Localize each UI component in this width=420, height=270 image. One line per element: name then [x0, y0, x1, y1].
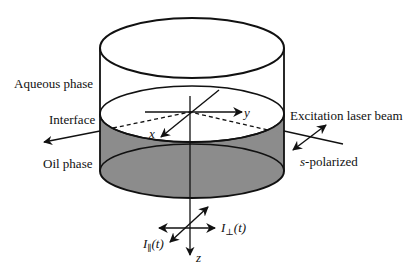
- s-polarization-arrow: [293, 125, 326, 150]
- label-excitation-beam: Excitation laser beam: [290, 108, 403, 123]
- label-s-polarized: s-polarized: [300, 154, 358, 169]
- label-I-perp: I⊥(t): [220, 220, 246, 237]
- label-interface: Interface: [49, 112, 95, 127]
- excitation-beam-in: [284, 131, 343, 144]
- label-aqueous-phase: Aqueous phase: [14, 76, 93, 91]
- label-oil-phase: Oil phase: [43, 156, 93, 171]
- cylinder-top: [100, 18, 284, 78]
- axis-label-x: x: [148, 126, 155, 141]
- label-I-par: I∥(t): [142, 236, 164, 253]
- interface-diagram: Aqueous phase Interface Oil phase Excita…: [0, 0, 420, 270]
- reflected-beam-out: [44, 131, 100, 142]
- par-intensity-arrow: [170, 207, 208, 242]
- axis-label-y: y: [242, 105, 250, 120]
- axis-label-z: z: [195, 250, 201, 265]
